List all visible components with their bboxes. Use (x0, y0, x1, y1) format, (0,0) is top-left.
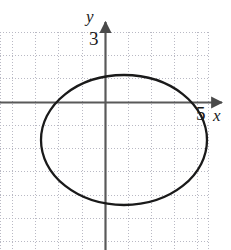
x-axis-tick-label-5: 5 (196, 104, 206, 123)
x-axis-label: x (213, 107, 221, 124)
plot-canvas (0, 0, 231, 250)
graph-figure: y x 3 5 (0, 0, 231, 250)
axis-lines (0, 22, 222, 250)
ellipse-curve (41, 75, 207, 205)
y-axis-tick-label-3: 3 (89, 29, 99, 48)
y-axis-label: y (86, 8, 94, 25)
